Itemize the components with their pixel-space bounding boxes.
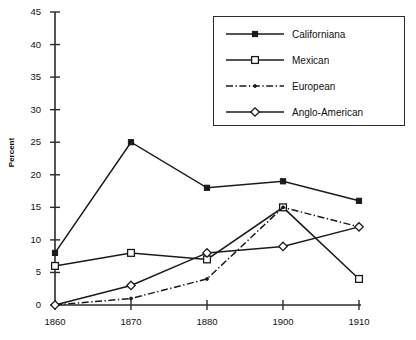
chart-legend: CalifornianaMexicanEuropeanAnglo-America… <box>213 16 405 126</box>
x-tick-label: 1870 <box>108 316 154 327</box>
legend-item-mexican: Mexican <box>214 47 406 73</box>
chart-series-anglo-american <box>51 223 363 310</box>
x-tick-label: 1880 <box>184 316 230 327</box>
y-tick-label: 20 <box>11 169 41 180</box>
legend-label: European <box>292 81 335 92</box>
legend-marker-icon <box>224 27 286 41</box>
y-tick-label: 15 <box>11 201 41 212</box>
y-tick-label: 0 <box>11 299 41 310</box>
legend-marker-icon <box>224 79 286 93</box>
chart-container: Percent 051015202530354045 1860187018801… <box>0 0 416 340</box>
x-tick-label: 1910 <box>336 316 382 327</box>
legend-label: Mexican <box>292 55 329 66</box>
legend-label: Anglo-American <box>292 107 363 118</box>
legend-marker-icon <box>224 53 286 67</box>
y-tick-label: 25 <box>11 136 41 147</box>
x-tick-label: 1860 <box>32 316 78 327</box>
legend-marker-icon <box>224 105 286 119</box>
x-tick-label: 1900 <box>260 316 306 327</box>
y-tick-label: 40 <box>11 39 41 50</box>
y-tick-label: 35 <box>11 71 41 82</box>
legend-item-european: European <box>214 73 406 99</box>
y-tick-label: 10 <box>11 234 41 245</box>
y-tick-label: 5 <box>11 266 41 277</box>
legend-item-anglo-american: Anglo-American <box>214 99 406 125</box>
legend-item-californiana: Californiana <box>214 21 406 47</box>
legend-label: Californiana <box>292 29 345 40</box>
chart-series-mexican <box>52 204 363 282</box>
y-tick-label: 30 <box>11 104 41 115</box>
y-tick-label: 45 <box>11 6 41 17</box>
